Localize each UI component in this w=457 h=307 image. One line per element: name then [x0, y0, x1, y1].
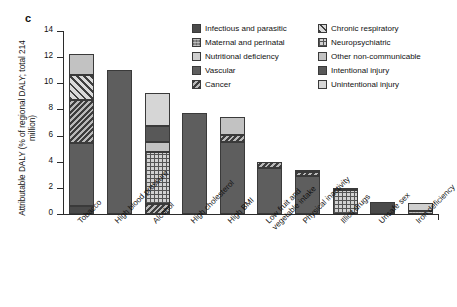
light-gray-swatch: [318, 52, 327, 61]
legend-column-right: Chronic respiratoryNeuropsychiatricOther…: [318, 22, 421, 91]
legend-label: Intentional injury: [331, 66, 389, 75]
bar-segment-intentional: [145, 126, 170, 142]
y-axis-tick-label: 0: [31, 208, 53, 217]
y-axis-tick-label: 4: [31, 156, 53, 165]
legend-item: Other non-communicable: [318, 50, 421, 64]
legend-label: Infectious and parasitic: [205, 24, 287, 33]
legend-item: Intentional injury: [318, 63, 421, 77]
bar-tobacco: [69, 31, 94, 214]
gray-textured-swatch: [192, 38, 201, 47]
bar-segment-cancer: [295, 172, 320, 177]
diagonal-hatch-swatch: [192, 80, 201, 89]
legend-item: Chronic respiratory: [318, 22, 421, 36]
legend-label: Unintentional injury: [331, 80, 399, 89]
bar-segment-cancer: [220, 135, 245, 142]
legend-label: Neuropsychiatric: [331, 38, 391, 47]
y-axis-tick-label: 14: [31, 25, 53, 34]
bar-segment-vascular: [69, 143, 94, 206]
y-axis-tick-label: 12: [31, 51, 53, 60]
y-axis-tick-label: 6: [31, 130, 53, 139]
bar-segment-othernc: [295, 170, 320, 172]
bar-segment-unintentional: [145, 93, 170, 126]
light-gray-solid-swatch: [192, 52, 201, 61]
legend-label: Cancer: [205, 80, 231, 89]
legend-item: Neuropsychiatric: [318, 36, 421, 50]
legend-column-left: Infectious and parasiticMaternal and per…: [192, 22, 287, 91]
y-axis-label: Attributable DALY (% of regional DALY; t…: [18, 33, 38, 223]
y-axis-tick-label: 10: [31, 77, 53, 86]
legend-item: Cancer: [192, 77, 287, 91]
bar-segment-cancer: [257, 162, 282, 169]
panel-label: c: [25, 12, 31, 24]
legend-label: Nutritional deficiency: [205, 52, 279, 61]
legend-item: Nutritional deficiency: [192, 50, 287, 64]
y-axis-tick: [57, 214, 63, 215]
legend-label: Chronic respiratory: [331, 24, 399, 33]
dark-gray-solid-swatch: [192, 24, 201, 33]
bar-segment-othernc: [220, 117, 245, 135]
legend-label: Other non-communicable: [331, 52, 421, 61]
very-light-gray-swatch: [318, 80, 327, 89]
medium-gray-solid-swatch: [192, 66, 201, 75]
diagonal-hatch-light-swatch: [318, 24, 327, 33]
dotted-grid-swatch: [318, 38, 327, 47]
bar-segment-vascular: [107, 70, 132, 214]
legend-label: Vascular: [205, 66, 236, 75]
bar-high-blood-pressure: [107, 31, 132, 214]
bar-segment-othernc: [69, 54, 94, 76]
legend-item: Infectious and parasitic: [192, 22, 287, 36]
bar-segment-cancer: [69, 100, 94, 143]
bar-segment-othernc: [145, 142, 170, 152]
bar-segment-vascular: [182, 113, 207, 214]
x-axis-end-tick: [438, 214, 439, 220]
legend-label: Maternal and perinatal: [205, 38, 285, 47]
y-axis-tick-label: 2: [31, 182, 53, 191]
legend-item: Vascular: [192, 63, 287, 77]
dark-gray-swatch: [318, 66, 327, 75]
legend-item: Maternal and perinatal: [192, 36, 287, 50]
bar-segment-chronicresp: [69, 75, 94, 100]
legend-item: Unintentional injury: [318, 77, 421, 91]
y-axis-tick-label: 8: [31, 103, 53, 112]
